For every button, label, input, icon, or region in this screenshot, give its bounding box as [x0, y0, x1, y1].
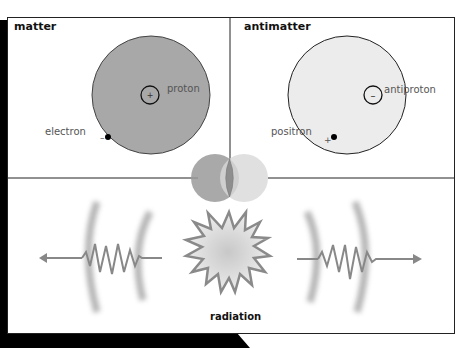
left-zigzag-wave	[82, 244, 162, 274]
positron-label: positron	[271, 126, 312, 137]
electron-label: electron	[45, 126, 86, 137]
positron-charge-icon: +	[324, 135, 332, 145]
right-arrowhead-icon	[413, 254, 422, 264]
antimatter-title: antimatter	[244, 20, 311, 33]
proton-charge-icon: +	[147, 91, 154, 100]
electron-icon	[105, 134, 111, 140]
antiproton-label: antiproton	[384, 84, 436, 95]
radiation-burst-icon	[186, 212, 270, 292]
antiproton-charge-icon: –	[371, 90, 376, 101]
radiation-caption: radiation	[210, 311, 261, 322]
left-arrowhead-icon	[39, 253, 47, 263]
diagram-canvas: + – – +	[0, 0, 476, 348]
matter-title: matter	[14, 20, 56, 33]
electron-charge-icon: –	[100, 133, 105, 143]
proton-label: proton	[167, 83, 200, 94]
positron-icon	[331, 134, 337, 140]
